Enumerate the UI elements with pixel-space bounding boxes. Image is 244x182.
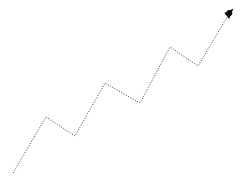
chart-background xyxy=(0,0,244,182)
figure-canvas xyxy=(0,0,244,182)
trend-arrow-chart xyxy=(0,0,244,182)
